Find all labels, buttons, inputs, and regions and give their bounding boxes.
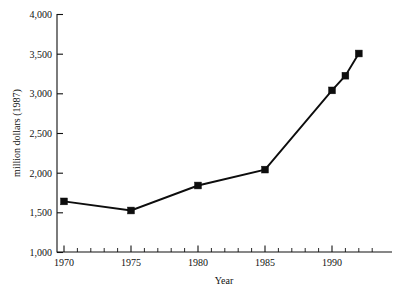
x-tick-label: 1990 bbox=[322, 257, 342, 268]
x-tick-label: 1980 bbox=[188, 257, 208, 268]
x-axis-title: Year bbox=[215, 275, 234, 286]
y-tick-label: 2,500 bbox=[30, 128, 53, 139]
y-tick-label: 1,000 bbox=[30, 247, 53, 258]
y-tick-label: 1,500 bbox=[30, 207, 53, 218]
chart-page: 4,000 3,500 3,000 2,500 2,000 1,500 1,00… bbox=[0, 0, 397, 291]
line-chart-figure: 4,000 3,500 3,000 2,500 2,000 1,500 1,00… bbox=[0, 0, 397, 291]
data-point-marker bbox=[61, 198, 68, 205]
data-point-marker bbox=[128, 207, 135, 214]
data-point-marker bbox=[329, 87, 336, 94]
x-tick-label: 1975 bbox=[121, 257, 141, 268]
data-point-marker bbox=[342, 72, 349, 79]
data-point-marker bbox=[262, 166, 269, 173]
data-point-marker bbox=[195, 182, 202, 189]
y-tick-label: 4,000 bbox=[30, 9, 53, 20]
x-tick-label: 1970 bbox=[54, 257, 74, 268]
x-tick-label: 1985 bbox=[255, 257, 275, 268]
data-point-marker bbox=[355, 50, 362, 57]
y-tick-label: 3,000 bbox=[30, 88, 53, 99]
y-tick-label: 3,500 bbox=[30, 49, 53, 60]
y-tick-label: 2,000 bbox=[30, 168, 53, 179]
y-axis-title: million dollars (1987) bbox=[11, 89, 23, 177]
chart-canvas: 4,000 3,500 3,000 2,500 2,000 1,500 1,00… bbox=[0, 0, 397, 291]
